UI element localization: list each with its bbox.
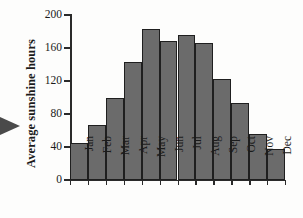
x-axis-category-label: Apr (137, 136, 149, 182)
x-axis-tick (88, 180, 89, 185)
x-axis-category-label: Nov (263, 136, 275, 182)
x-axis-category-label: Dec (281, 136, 293, 182)
y-axis-tick (64, 47, 70, 48)
y-axis-tick (64, 14, 70, 15)
x-axis-category-label: Oct (245, 136, 257, 182)
y-axis-tick (64, 80, 70, 81)
x-axis-tick (195, 180, 196, 185)
x-axis-tick (160, 180, 161, 185)
y-axis-tick-label: 40 (18, 141, 62, 153)
x-axis-category-label: Sep (227, 136, 239, 182)
x-axis-tick (106, 180, 107, 185)
y-axis-tick-labels: 04080120160200 (14, 0, 62, 218)
x-axis-category-label: Jun (173, 136, 185, 182)
x-axis-category-label: Mar (119, 136, 131, 182)
y-axis-tick-label: 160 (18, 42, 62, 54)
y-axis-tick (64, 146, 70, 147)
chart-figure: Average sunshine hours 04080120160200 Ja… (0, 0, 303, 218)
x-axis-tick (213, 180, 214, 185)
x-axis-tick (267, 180, 268, 185)
x-axis-tick (231, 180, 232, 185)
y-axis-tick-label: 0 (18, 174, 62, 186)
x-axis-category-label: Feb (101, 136, 113, 182)
x-axis-tick (142, 180, 143, 185)
x-axis-category-label: Aug (209, 136, 221, 182)
x-axis-tick (124, 180, 125, 185)
x-axis-tick (285, 180, 286, 185)
y-axis-tick-label: 80 (18, 108, 62, 120)
y-axis-tick-label: 120 (18, 75, 62, 87)
y-axis-tick (64, 113, 70, 114)
x-axis-category-label: May (155, 136, 167, 182)
x-axis-tick (249, 180, 250, 185)
x-axis-tick (178, 180, 179, 185)
x-axis-category-label: Jul (191, 136, 203, 182)
y-axis-tick-label: 200 (18, 9, 62, 21)
x-axis-tick (70, 180, 71, 185)
x-axis-category-label: Jan (83, 136, 95, 182)
